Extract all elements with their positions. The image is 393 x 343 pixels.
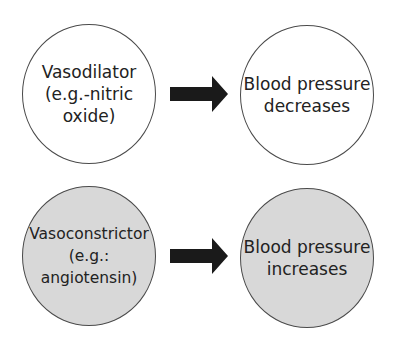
vasoconstrictor-node: Vasoconstrictor (e.g.: angiotensin) [22, 186, 156, 326]
vasodilator-node: Vasodilator (e.g.-nitric oxide) [22, 24, 156, 164]
right-arrow-icon [168, 74, 230, 114]
vasodilator-label: Vasodilator (e.g.-nitric oxide) [42, 61, 137, 127]
vasoconstrictor-label: Vasoconstrictor (e.g.: angiotensin) [29, 223, 149, 289]
blood-pressure-increases-label: Blood pressure increases [244, 236, 371, 280]
blood-pressure-decreases-node: Blood pressure decreases [240, 25, 374, 165]
right-arrow-icon [168, 236, 230, 276]
blood-pressure-increases-node: Blood pressure increases [240, 188, 374, 328]
blood-pressure-decreases-label: Blood pressure decreases [244, 73, 371, 117]
